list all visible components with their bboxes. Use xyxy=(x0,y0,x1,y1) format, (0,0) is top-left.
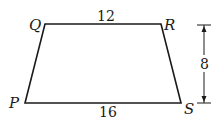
arrow-down-icon xyxy=(202,96,207,102)
vertex-label-q: Q xyxy=(29,16,41,34)
trapezoid-pqrs xyxy=(25,24,181,103)
arrow-up-icon xyxy=(202,26,207,32)
height-length: 8 xyxy=(200,56,209,72)
trapezoid-diagram: Q R S P 12 16 8 xyxy=(0,0,220,123)
vertex-label-p: P xyxy=(8,94,20,112)
top-base-length: 12 xyxy=(97,8,115,24)
vertex-label-r: R xyxy=(163,16,175,34)
vertex-label-s: S xyxy=(184,100,194,118)
bottom-base-length: 16 xyxy=(99,104,117,120)
